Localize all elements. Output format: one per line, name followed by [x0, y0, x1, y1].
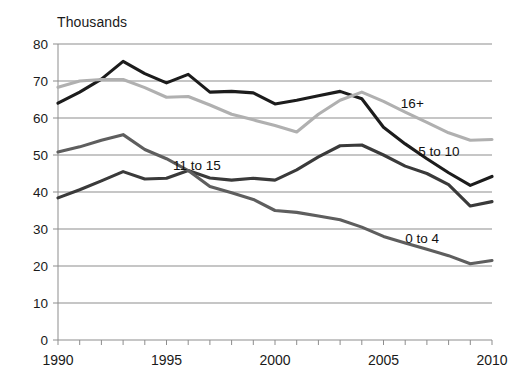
chart-plot-area [0, 0, 523, 388]
series-line-16+ [58, 80, 492, 141]
y-tick-label: 80 [18, 37, 48, 52]
series-label-11-to-15: 11 to 15 [173, 158, 221, 173]
x-tick-label: 1990 [42, 352, 73, 368]
series-label-5-to-10: 5 to 10 [418, 144, 459, 159]
line-chart: Thousands 01020304050607080 199019952000… [0, 0, 523, 388]
y-tick-label: 60 [18, 111, 48, 126]
y-tick-label: 40 [18, 185, 48, 200]
y-tick-label: 10 [18, 296, 48, 311]
x-tick-label: 1995 [151, 352, 182, 368]
series-label-0-to-4: 0 to 4 [405, 231, 439, 246]
axis-ticks [53, 44, 492, 345]
x-tick-label: 2010 [476, 352, 507, 368]
series-label-16+: 16+ [401, 96, 424, 111]
x-tick-label: 2005 [368, 352, 399, 368]
y-tick-label: 20 [18, 259, 48, 274]
x-tick-label: 2000 [259, 352, 290, 368]
y-tick-label: 0 [18, 333, 48, 348]
y-tick-label: 30 [18, 222, 48, 237]
y-tick-label: 70 [18, 74, 48, 89]
y-tick-label: 50 [18, 148, 48, 163]
